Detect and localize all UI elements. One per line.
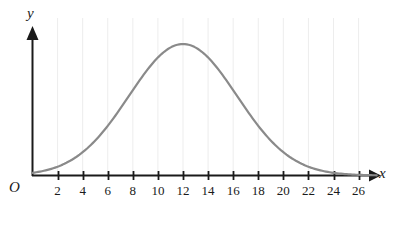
x-tick-label: 24 (327, 184, 340, 197)
x-tick-label: 14 (202, 184, 215, 197)
bell-curve-line (33, 44, 377, 175)
x-tick-label: 16 (227, 184, 240, 197)
x-tick-label: 10 (151, 184, 164, 197)
y-axis-arrow-icon (27, 26, 39, 40)
origin-label: O (9, 180, 20, 195)
x-tick-label: 18 (252, 184, 265, 197)
y-axis-label: y (27, 6, 34, 21)
x-tick-label: 8 (130, 184, 137, 197)
x-tick-label: 4 (79, 184, 86, 197)
axis-lines (27, 26, 382, 182)
graph-figure: y x O 2468101214161820222426 (0, 0, 398, 226)
gridlines (58, 18, 359, 176)
x-tick-label: 2 (54, 184, 61, 197)
x-tick-label: 26 (352, 184, 365, 197)
x-tick-label: 12 (177, 184, 190, 197)
x-tick-label: 20 (277, 184, 290, 197)
x-tick-label: 6 (105, 184, 112, 197)
x-axis-label: x (379, 166, 386, 181)
x-tick-label: 22 (302, 184, 315, 197)
